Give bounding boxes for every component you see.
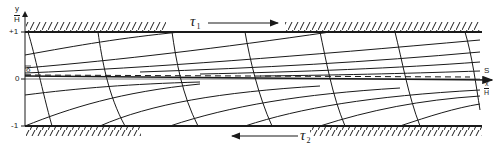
- center-lines: [25, 75, 492, 80]
- tau1-subscript: 1: [196, 22, 200, 31]
- tau1-symbol: τ: [190, 13, 195, 29]
- tau2-label: τ2: [300, 128, 310, 145]
- flow-diagram: [0, 0, 500, 147]
- x-axis-label-denominator: H: [484, 88, 489, 96]
- tick-label-zero: 0: [15, 75, 19, 83]
- bottom-wall: [25, 126, 482, 136]
- delta-label: δ: [26, 66, 30, 74]
- tau2-symbol: τ: [300, 127, 305, 143]
- s-label: S: [484, 67, 489, 75]
- y-axis-label-numerator: y: [15, 5, 19, 13]
- tick-label-plus-one: +1: [9, 28, 18, 36]
- tau2-subscript: 2: [306, 136, 310, 145]
- y-axis-label-denominator: H: [14, 15, 20, 24]
- tick-label-minus-one: -1: [11, 122, 18, 130]
- x-axis-label-numerator: x: [485, 80, 489, 87]
- tau1-label: τ1: [190, 14, 200, 31]
